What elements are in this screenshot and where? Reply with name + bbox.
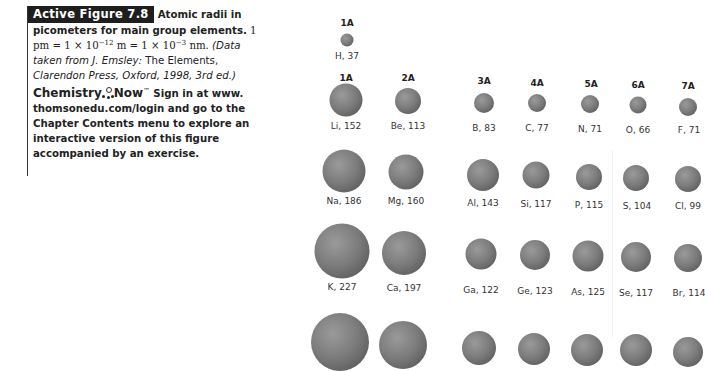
atom-label-na: Na, 186 xyxy=(326,196,361,206)
group-header-1a: 1A xyxy=(339,73,352,83)
atom-sphere-as xyxy=(573,241,604,272)
atom-sphere-o xyxy=(630,97,647,114)
group-header-7a: 7A xyxy=(681,81,694,91)
atom-sphere-period5-3a xyxy=(462,331,496,365)
group-header-4a: 4A xyxy=(530,78,543,88)
atom-sphere-period5-4a xyxy=(518,333,550,365)
group-header-6a: 6A xyxy=(631,80,644,90)
atom-label-f: F, 71 xyxy=(678,125,700,135)
atom-label-o: O, 66 xyxy=(626,125,650,135)
atom-sphere-h xyxy=(341,34,354,47)
atom-sphere-br xyxy=(674,244,702,272)
atom-label-li: Li, 152 xyxy=(331,121,361,131)
atom-sphere-c xyxy=(528,94,546,112)
atom-label-mg: Mg, 160 xyxy=(388,196,424,206)
atom-label-ca: Ca, 197 xyxy=(387,283,422,293)
atom-label-b: B, 83 xyxy=(472,123,495,133)
atom-sphere-li xyxy=(330,84,363,117)
atom-sphere-ge xyxy=(520,240,550,270)
trademark: ™ xyxy=(143,87,150,95)
atom-logo-icon xyxy=(102,87,114,99)
atom-sphere-n xyxy=(581,95,599,113)
group-header-h: 1A xyxy=(340,18,353,28)
atom-sphere-f xyxy=(679,98,697,116)
chemistry-now-block: ChemistryNow™ Sign in at www. thomsonedu… xyxy=(33,86,262,161)
brand-chemistry: Chemistry xyxy=(33,86,102,100)
figure-caption: Active Figure 7.8Atomic radii in picomet… xyxy=(27,6,262,176)
atom-sphere-si xyxy=(523,162,550,189)
atom-sphere-p xyxy=(576,164,602,190)
atom-label-ga: Ga, 122 xyxy=(463,285,498,295)
atom-label-br: Br, 114 xyxy=(673,288,705,298)
atom-label-al: Al, 143 xyxy=(467,198,499,208)
atom-sphere-period5-2a xyxy=(379,321,427,369)
atom-sphere-ga xyxy=(466,239,497,270)
group-header-3a: 3A xyxy=(477,76,490,86)
atom-label-as: As, 125 xyxy=(571,287,605,297)
atom-sphere-ca xyxy=(382,231,426,275)
group-header-5a: 5A xyxy=(584,79,597,89)
atom-label-p: P, 115 xyxy=(575,200,603,210)
atom-label-be: Be, 113 xyxy=(391,121,426,131)
atom-sphere-be xyxy=(395,88,421,114)
atom-sphere-b xyxy=(474,93,494,113)
source-plain: The Elements, xyxy=(145,55,218,66)
brand-now: Now xyxy=(114,86,143,100)
atom-sphere-period5-7a xyxy=(673,337,703,367)
atom-label-se: Se, 117 xyxy=(619,288,653,298)
source-italic-2: Clarendon Press, Oxford, 1998, 3rd ed.) xyxy=(33,70,236,81)
atom-sphere-period5-1a xyxy=(311,313,369,371)
atom-label-h: H, 37 xyxy=(335,51,359,61)
atom-sphere-se xyxy=(621,242,651,272)
atom-label-cl: Cl, 99 xyxy=(675,201,701,211)
atom-sphere-k xyxy=(315,224,370,279)
atom-sphere-period5-6a xyxy=(620,334,652,366)
group-header-2a: 2A xyxy=(401,73,414,83)
figure-tag: Active Figure 7.8 xyxy=(28,6,154,23)
atom-sphere-mg xyxy=(389,155,424,190)
atom-label-s: S, 104 xyxy=(623,201,652,211)
atom-label-c: C, 77 xyxy=(525,123,548,133)
atom-label-k: K, 227 xyxy=(328,282,357,292)
atom-label-si: Si, 117 xyxy=(520,199,551,209)
atom-label-ge: Ge, 123 xyxy=(517,286,552,296)
atom-sphere-period5-5a xyxy=(571,334,603,366)
atom-label-n: N, 71 xyxy=(578,124,602,134)
atom-sphere-na xyxy=(323,150,366,193)
atom-sphere-s xyxy=(623,165,649,191)
column-divider xyxy=(612,150,613,337)
atom-sphere-cl xyxy=(675,166,701,192)
atom-sphere-al xyxy=(467,159,499,191)
